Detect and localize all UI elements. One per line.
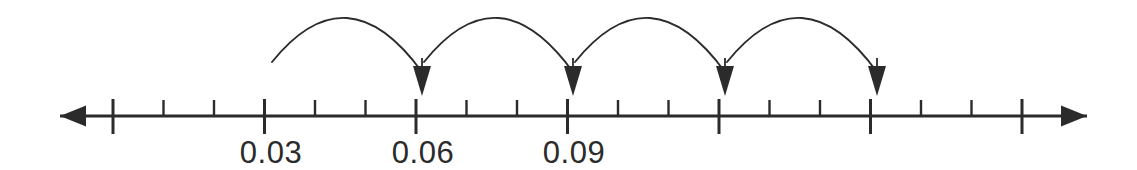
number-line-svg: 0.030.060.09 [0, 0, 1137, 170]
hop-arrowhead-4 [868, 66, 886, 96]
hop-arrowhead-3 [716, 66, 734, 96]
hop-4 [727, 18, 877, 72]
tick-labels-group: 0.030.060.09 [240, 135, 605, 170]
tick-label-1: 0.06 [392, 135, 454, 170]
hop-arrowheads-group [413, 66, 886, 96]
hops-group [272, 18, 877, 72]
hop-2 [424, 18, 573, 72]
number-line-figure: 0.030.060.09 [0, 0, 1137, 170]
tick-label-2: 0.09 [543, 135, 605, 170]
hop-arrowhead-2 [564, 66, 582, 96]
hop-1 [272, 18, 422, 72]
hop-3 [575, 18, 725, 72]
axis-arrow-right-icon [1061, 106, 1087, 127]
axis-arrow-left-icon [60, 106, 86, 127]
tick-label-0: 0.03 [240, 135, 302, 170]
hop-arrowhead-1 [413, 66, 431, 96]
